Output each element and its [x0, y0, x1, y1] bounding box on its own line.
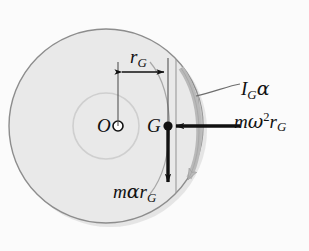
rg-subscript: G — [137, 55, 146, 70]
marg-mass: m — [113, 181, 127, 202]
mw2rg-mass: m — [234, 111, 248, 132]
iga-subscript: G — [247, 87, 256, 102]
mw2rg-subscript: G — [277, 119, 286, 134]
iga-alpha: α — [257, 77, 270, 99]
figure-canvas: O G rG IGα mω2rG mαrG — [0, 0, 309, 251]
inertia-couple-label: IGα — [241, 79, 270, 102]
mass-center-label: G — [147, 116, 161, 135]
marg-radius: r — [140, 181, 147, 202]
marg-subscript: G — [147, 190, 156, 205]
mw2rg-omega: ω — [248, 110, 264, 132]
normal-force-label: mω2rG — [234, 111, 286, 134]
pivot-label: O — [97, 116, 111, 135]
rg-label: rG — [130, 47, 147, 70]
tangential-force-label: mαrG — [113, 182, 156, 205]
iga-leader-line — [196, 84, 240, 96]
marg-alpha: α — [127, 180, 140, 202]
mw2rg-radius: r — [270, 111, 277, 132]
